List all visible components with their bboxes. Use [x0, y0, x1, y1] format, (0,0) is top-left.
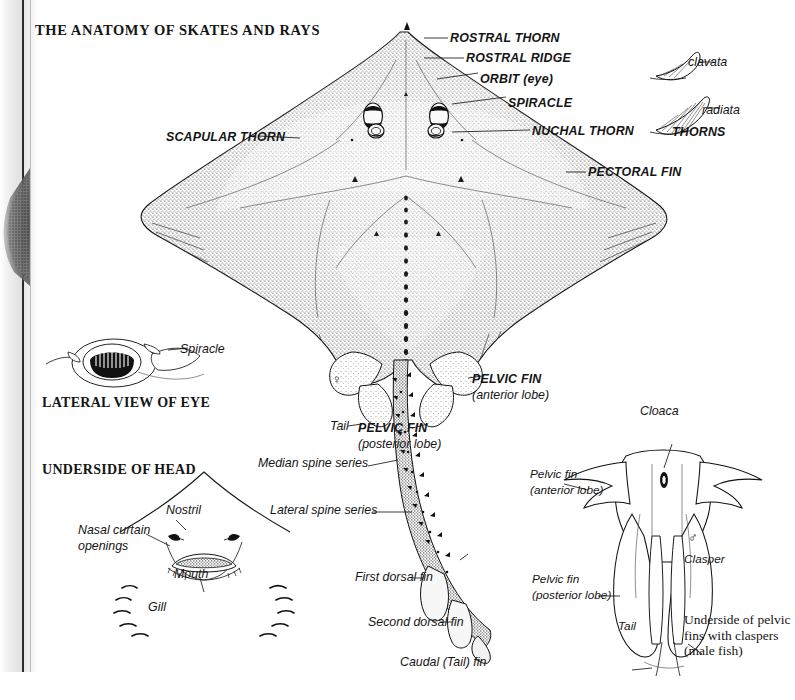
clasper-left-shape	[649, 536, 663, 644]
label-nasal-curtain: Nasal curtain	[78, 523, 150, 537]
label-rostral-ridge: ROSTRAL RIDGE	[466, 51, 571, 65]
label-median-spine-series: Median spine series	[258, 456, 368, 470]
label-pectoral-fin: PECTORAL FIN	[588, 165, 682, 179]
label-radiata: radiata	[702, 103, 740, 117]
label-pelvic-fin-anterior-sub: (anterior lobe)	[472, 388, 549, 402]
label-lateral-spine-series: Lateral spine series	[270, 503, 377, 517]
label-tail: Tail	[330, 419, 349, 433]
label-clasper-pelvic-anterior-sub: (anterior lobe)	[530, 483, 603, 497]
right-gill-slits	[260, 586, 294, 636]
female-symbol: ♀	[332, 372, 342, 388]
caption-underside-pelvic-fins: Underside of pelvic fins with claspers (…	[684, 612, 795, 659]
label-pelvic-fin-posterior-sub: (posterior lobe)	[358, 437, 441, 451]
label-cloaca: Cloaca	[640, 404, 679, 418]
label-clasper-pelvic-posterior-sub: (posterior lobe)	[532, 588, 611, 602]
label-pelvic-fin-anterior: PELVIC FIN	[472, 372, 541, 386]
label-nostril: Nostril	[166, 503, 201, 517]
label-spiracle: SPIRACLE	[508, 96, 572, 110]
label-rostral-thorn: ROSTRAL THORN	[450, 31, 560, 45]
label-clasper-tail: Tail	[618, 619, 636, 633]
label-first-dorsal-fin: First dorsal fin	[355, 570, 433, 584]
header-underside-of-head: UNDERSIDE OF HEAD	[42, 462, 196, 478]
label-nasal-curtain-openings: openings	[78, 539, 128, 553]
label-gill: Gill	[148, 600, 166, 614]
label-thorns-heading: THORNS	[672, 125, 726, 139]
page-title: THE ANATOMY OF SKATES AND RAYS	[35, 22, 320, 39]
label-clavata: clavata	[688, 55, 727, 69]
label-clasper-pelvic-anterior: Pelvic fin	[530, 467, 577, 481]
male-symbol: ♂	[688, 530, 698, 546]
label-mouth: Mouth	[174, 567, 208, 581]
underside-of-head-illustration	[100, 470, 360, 650]
left-gill-slits	[114, 586, 148, 636]
header-lateral-view-of-eye: LATERAL VIEW OF EYE	[42, 395, 210, 411]
lateral-eye-illustration	[42, 330, 252, 400]
label-clasper-pelvic-posterior: Pelvic fin	[532, 572, 579, 586]
label-second-dorsal-fin: Second dorsal fin	[368, 615, 464, 629]
label-orbit: ORBIT (eye)	[480, 72, 553, 86]
rostral-thorn-marker	[404, 22, 410, 30]
label-nuchal-thorn: NUCHAL THORN	[532, 124, 634, 138]
label-spiracle-inset: Spiracle	[180, 342, 225, 356]
label-pelvic-fin-posterior: PELVIC FIN	[358, 421, 427, 435]
label-clasper: Clasper	[684, 552, 725, 566]
label-caudal-fin: Caudal (Tail) fin	[400, 655, 486, 669]
clasper-right-shape	[671, 536, 685, 644]
label-scapular-thorn: SCAPULAR THORN	[166, 130, 285, 144]
